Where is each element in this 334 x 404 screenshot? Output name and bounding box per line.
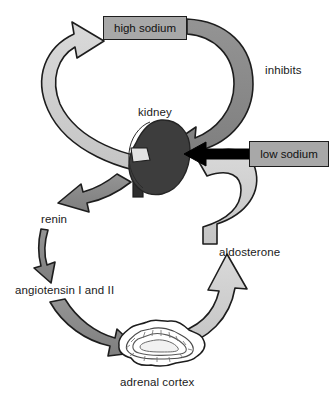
label-adrenal-cortex: adrenal cortex	[120, 377, 194, 389]
pathway-diagram	[0, 0, 334, 404]
box-high-sodium[interactable]: high sodium	[103, 16, 187, 40]
label-kidney: kidney	[138, 107, 172, 119]
arrow-kidney-to-renin	[58, 174, 131, 212]
label-aldosterone: aldosterone	[219, 247, 280, 259]
label-angiotensin: angiotensin I and II	[15, 285, 114, 297]
arrow-renin-to-angiotensin	[34, 229, 55, 283]
label-renin: renin	[41, 214, 67, 226]
kidney-organ	[129, 120, 190, 197]
label-inhibits: inhibits	[265, 65, 302, 77]
box-low-sodium[interactable]: low sodium	[249, 141, 329, 167]
